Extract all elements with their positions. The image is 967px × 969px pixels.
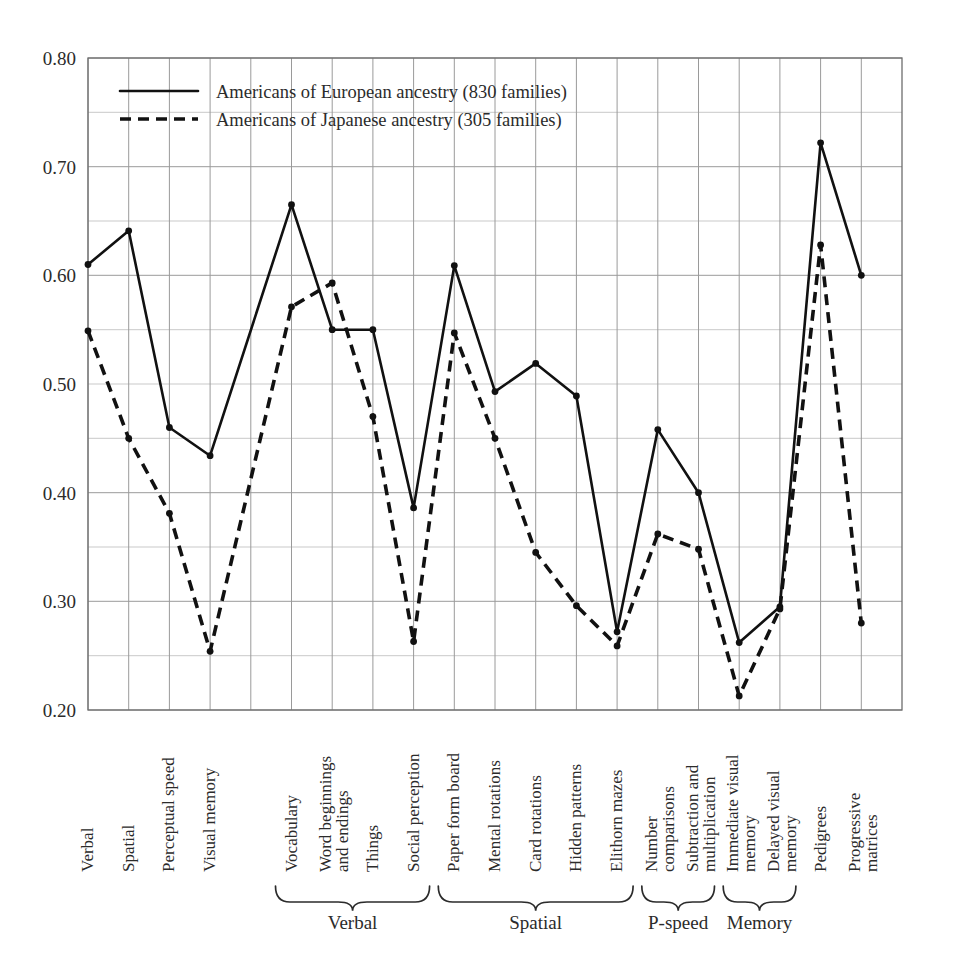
data-point: [532, 360, 539, 367]
data-point: [614, 643, 621, 650]
category-label: Things: [363, 825, 382, 872]
data-point: [125, 435, 132, 442]
category-label: and endings: [333, 790, 352, 872]
category-label: matrices: [862, 814, 881, 872]
data-point: [817, 139, 824, 146]
data-point: [492, 435, 499, 442]
data-point: [858, 272, 865, 279]
data-point: [695, 546, 702, 553]
data-point: [85, 261, 92, 268]
legend-label: Americans of Japanese ancestry (305 fami…: [216, 110, 562, 131]
group-brace: [642, 886, 715, 911]
y-axis-tick-label: 0.60: [43, 265, 76, 286]
y-axis-tick-label: 0.80: [43, 48, 76, 69]
data-point: [329, 326, 336, 333]
data-point: [370, 326, 377, 333]
data-point: [492, 388, 499, 395]
data-point: [858, 620, 865, 627]
category-label: Spatial: [119, 825, 138, 872]
data-point: [125, 227, 132, 234]
series-line-european: [88, 143, 861, 643]
group-braces: VerbalSpatialP-speedMemory: [276, 886, 796, 933]
y-axis-tick-label: 0.30: [43, 591, 76, 612]
data-point: [654, 531, 661, 538]
legend-label: Americans of European ancestry (830 fami…: [216, 82, 567, 103]
category-label: Pedigrees: [811, 806, 830, 872]
data-point: [777, 606, 784, 613]
category-label: Perceptual speed: [159, 757, 178, 872]
category-label: Hidden patterns: [566, 764, 585, 872]
series-line-japanese: [88, 245, 861, 696]
data-point: [370, 413, 377, 420]
data-point: [451, 262, 458, 269]
data-point: [410, 505, 417, 512]
data-point: [410, 638, 417, 645]
category-label: Vocabulary: [282, 794, 301, 872]
data-point: [736, 693, 743, 700]
y-axis-tick-label: 0.70: [43, 157, 76, 178]
data-point: [817, 242, 824, 249]
category-label: Card rotations: [526, 775, 545, 872]
heritability-line-chart: 0.200.300.400.500.600.700.80 Americans o…: [0, 0, 967, 969]
chart-canvas: 0.200.300.400.500.600.700.80 Americans o…: [0, 0, 967, 969]
group-brace: [276, 886, 430, 911]
group-label: Spatial: [509, 912, 562, 933]
data-point: [207, 452, 214, 459]
data-point: [614, 628, 621, 635]
category-label: comparisons: [659, 786, 678, 872]
data-point: [166, 424, 173, 431]
data-point: [736, 639, 743, 646]
category-label: Verbal: [78, 827, 97, 872]
category-labels: VerbalSpatialPerceptual speedVisual memo…: [78, 753, 881, 872]
data-point: [288, 201, 295, 208]
data-point: [451, 330, 458, 337]
series-layer: [85, 139, 865, 699]
group-brace: [438, 886, 633, 911]
group-label: P-speed: [648, 912, 709, 933]
data-point: [654, 426, 661, 433]
category-label: Mental rotations: [485, 760, 504, 872]
data-point: [288, 303, 295, 310]
group-label: Memory: [727, 912, 793, 933]
category-label: Social perception: [404, 753, 423, 872]
y-axis-tick-labels: 0.200.300.400.500.600.700.80: [43, 48, 76, 721]
category-label: multiplication: [700, 776, 719, 872]
data-point: [166, 510, 173, 517]
category-label: memory: [781, 815, 800, 872]
y-axis-tick-label: 0.40: [43, 483, 76, 504]
category-label: memory: [740, 815, 759, 872]
data-point: [532, 549, 539, 556]
data-point: [85, 327, 92, 334]
category-label: Visual memory: [200, 767, 219, 872]
chart-legend: Americans of European ancestry (830 fami…: [120, 82, 567, 131]
data-point: [573, 602, 580, 609]
data-point: [329, 280, 336, 287]
category-label: Elithorn mazes: [607, 770, 626, 872]
y-axis-tick-label: 0.50: [43, 374, 76, 395]
data-point: [695, 489, 702, 496]
group-label: Verbal: [328, 912, 378, 933]
data-point: [573, 393, 580, 400]
group-brace: [723, 886, 796, 911]
data-point: [207, 648, 214, 655]
y-axis-tick-label: 0.20: [43, 700, 76, 721]
category-label: Paper form board: [444, 753, 463, 872]
